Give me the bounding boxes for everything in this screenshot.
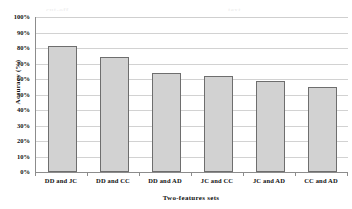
bar[interactable] bbox=[48, 46, 77, 172]
bar-slot bbox=[140, 17, 192, 172]
bar[interactable] bbox=[204, 76, 233, 172]
x-axis-tick-label: JC and CC bbox=[191, 177, 243, 189]
plot-area bbox=[35, 17, 348, 173]
page-bleed-artifact: cut-off text bbox=[0, 0, 352, 11]
y-axis-tick-label: 100% bbox=[6, 14, 30, 21]
bar-series bbox=[36, 17, 348, 172]
y-axis-tick-label: 50% bbox=[6, 91, 30, 98]
page-bleed-fragment-right: text bbox=[228, 6, 241, 11]
bar[interactable] bbox=[100, 57, 129, 172]
x-axis-tick bbox=[347, 172, 348, 176]
x-axis-tick-label: JC and AD bbox=[243, 177, 295, 189]
x-axis-tick-label: DD and JC bbox=[35, 177, 87, 189]
x-axis-ticks bbox=[35, 172, 348, 176]
bar-slot bbox=[192, 17, 244, 172]
x-axis-tick bbox=[243, 172, 244, 176]
y-axis-tick-label: 80% bbox=[6, 45, 30, 52]
bar-slot bbox=[88, 17, 140, 172]
x-axis-tick-label: DD and CC bbox=[87, 177, 139, 189]
y-axis-tick-label: 70% bbox=[6, 60, 30, 67]
x-axis-tick-labels: DD and JCDD and CCDD and ADJC and CCJC a… bbox=[35, 177, 347, 189]
x-axis-tick bbox=[139, 172, 140, 176]
x-axis-tick bbox=[295, 172, 296, 176]
y-axis-tick-label: 40% bbox=[6, 107, 30, 114]
bar[interactable] bbox=[152, 73, 181, 172]
y-axis-tick-label: 20% bbox=[6, 138, 30, 145]
y-axis-tick-label: 10% bbox=[6, 153, 30, 160]
y-axis-tick-label: 60% bbox=[6, 76, 30, 83]
y-axis-tick-label: 30% bbox=[6, 122, 30, 129]
x-axis-tick-label: CC and AD bbox=[295, 177, 347, 189]
page-bleed-fragment-left: cut-off bbox=[46, 6, 69, 11]
x-axis-tick bbox=[191, 172, 192, 176]
y-axis-tick-labels: 100%90%80%70%60%50%40%30%20%10%0% bbox=[6, 17, 30, 172]
y-axis-tick-label: 90% bbox=[6, 29, 30, 36]
bar-slot bbox=[244, 17, 296, 172]
bar-chart: cut-off text Accuracy (%) 100%90%80%70%6… bbox=[0, 0, 352, 209]
bar[interactable] bbox=[256, 81, 285, 172]
bar-slot bbox=[36, 17, 88, 172]
x-axis-tick-label: DD and AD bbox=[139, 177, 191, 189]
bar-slot bbox=[296, 17, 348, 172]
x-axis-title: Two-features sets bbox=[35, 194, 347, 202]
y-axis-tick-label: 0% bbox=[6, 169, 30, 176]
bar[interactable] bbox=[308, 87, 337, 172]
x-axis-tick bbox=[87, 172, 88, 176]
x-axis-tick bbox=[35, 172, 36, 176]
